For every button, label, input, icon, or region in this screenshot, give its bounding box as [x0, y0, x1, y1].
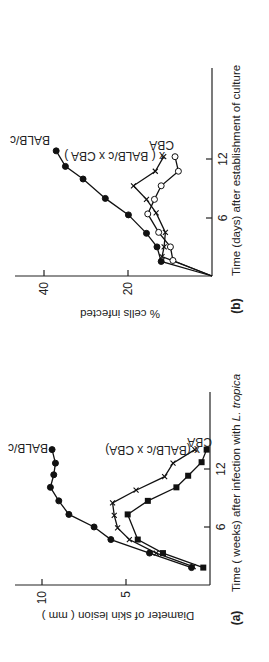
data-point-open-circle-icon: [145, 211, 151, 217]
data-point-open-circle-icon: [151, 196, 157, 202]
data-point-filled-square-icon: [160, 550, 166, 556]
data-point-filled-square-icon: [125, 511, 131, 517]
panel-b-xtick-12-label: 12: [216, 152, 230, 166]
data-point-cross-icon: [127, 537, 132, 542]
chart-svg: 5 10 6 12 Time ( weeks) after infection …: [0, 0, 269, 662]
series-line--balb-c-x-cba-: [113, 450, 195, 567]
panel-a-label: (a): [229, 611, 243, 626]
panel-a: 5 10 6 12 Time ( weeks) after infection …: [8, 374, 243, 626]
data-point-filled-square-icon: [173, 484, 179, 490]
series-line-balb-c: [56, 151, 212, 276]
panel-a-series-label-balb: BALB/c: [8, 441, 48, 455]
data-point-open-circle-icon: [170, 257, 176, 263]
panel-a-series-label-cba: CBA: [187, 435, 212, 449]
data-point-cross-icon: [144, 197, 149, 202]
data-point-filled-circle-icon: [108, 537, 114, 543]
data-point-filled-square-icon: [185, 473, 191, 479]
panel-a-x-label: Time ( weeks) after infection with L. tr…: [230, 374, 242, 592]
panel-b-ytick-20-label: 20: [121, 282, 135, 296]
data-point-filled-circle-icon: [52, 460, 58, 466]
panel-a-xtick-6-label: 6: [214, 523, 228, 530]
data-point-filled-square-icon: [199, 459, 205, 465]
data-point-cross-icon: [171, 461, 176, 466]
data-point-filled-circle-icon: [80, 176, 86, 182]
data-point-filled-square-icon: [145, 498, 151, 504]
data-point-filled-circle-icon: [49, 447, 55, 453]
panel-b-label: (b): [229, 298, 243, 313]
data-point-filled-square-icon: [135, 537, 141, 543]
data-point-cross-icon: [134, 488, 139, 493]
data-point-filled-square-icon: [200, 565, 206, 571]
data-point-filled-circle-icon: [56, 498, 62, 504]
data-point-cross-icon: [131, 183, 136, 188]
data-point-filled-circle-icon: [62, 163, 68, 169]
data-point-open-circle-icon: [156, 229, 162, 235]
panel-b-xtick-6-label: 6: [216, 214, 230, 221]
panel-b-series: [53, 148, 212, 276]
data-point-filled-circle-icon: [158, 258, 164, 264]
data-point-filled-circle-icon: [66, 511, 72, 517]
data-point-filled-circle-icon: [53, 148, 59, 154]
figure-rotated: 5 10 6 12 Time ( weeks) after infection …: [0, 0, 269, 662]
data-point-cross-icon: [153, 169, 158, 174]
panel-a-ytick-5-label: 5: [119, 591, 133, 598]
data-point-filled-circle-icon: [102, 195, 108, 201]
panel-a-y-label: Diameter of skin lesion ( mm ): [41, 610, 194, 622]
data-point-open-circle-icon: [158, 183, 164, 189]
data-point-open-circle-icon: [175, 168, 181, 174]
panel-b-x-label: Time (days) after establishment of cultu…: [230, 65, 242, 276]
panel-a-ytick-10-label: 10: [35, 591, 49, 605]
panel-a-series-label-cross: x (BALB/c x CBA): [105, 443, 200, 457]
data-point-filled-circle-icon: [51, 472, 57, 478]
panel-b-ytick-40-label: 40: [37, 282, 51, 296]
panel-b-series-label-cba: CBA: [149, 138, 174, 152]
panel-a-series: [47, 447, 209, 571]
data-point-filled-circle-icon: [154, 244, 160, 250]
panel-b-series-label-balb: BALB/c: [10, 133, 50, 147]
data-point-open-circle-icon: [172, 154, 178, 160]
data-point-filled-circle-icon: [47, 484, 53, 490]
data-point-cross-icon: [162, 474, 167, 479]
panel-b: 20 40 6 12 Time (days) after establishme…: [10, 65, 243, 320]
panel-b-y-label: % cells infected: [80, 308, 160, 320]
data-point-open-circle-icon: [167, 244, 173, 250]
data-point-filled-circle-icon: [143, 230, 149, 236]
data-point-cross-icon: [154, 210, 159, 215]
data-point-filled-circle-icon: [125, 212, 131, 218]
panel-a-xtick-12-label: 12: [214, 462, 228, 476]
data-point-filled-circle-icon: [91, 524, 97, 530]
